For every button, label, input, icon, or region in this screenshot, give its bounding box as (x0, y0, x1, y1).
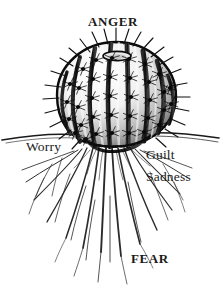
label-anger: ANGER (88, 15, 138, 28)
label-worry: Worry (26, 140, 61, 154)
label-fear: FEAR (131, 252, 169, 265)
cactus-body (43, 28, 190, 153)
cactus-illustration (0, 0, 221, 308)
label-sadness: Sadness (146, 170, 191, 184)
cactus-emotion-figure: ANGER Worry Guilt Sadness FEAR (0, 0, 221, 308)
label-guilt: Guilt (146, 148, 175, 162)
